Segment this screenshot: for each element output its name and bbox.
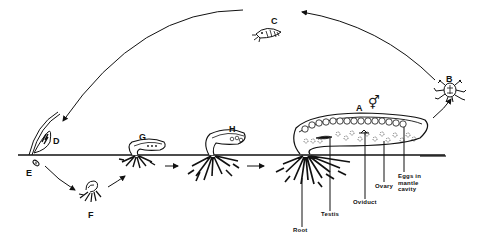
stage-label-h: H: [229, 125, 236, 134]
annotation-ovary: Ovary: [375, 183, 393, 190]
stage-label-c: C: [271, 17, 278, 26]
root-system: [276, 156, 350, 187]
kentrogon-e: [32, 159, 40, 167]
life-cycle-diagram: [0, 0, 485, 242]
annotation-oviduct: Oviduct: [353, 199, 377, 206]
arrow-e-to-f: [45, 166, 75, 190]
developing-stage-f: [79, 181, 101, 202]
annotation-root: Root: [293, 227, 307, 234]
stage-label-f: F: [88, 211, 94, 220]
arrow-b-to-c: [302, 12, 435, 80]
stage-label-g: G: [139, 133, 146, 142]
arrow-a-to-b: [433, 99, 451, 118]
stage-label-d: D: [53, 137, 60, 146]
arrow-f-to-g: [108, 176, 125, 187]
cyprid-on-seta-d: [29, 112, 60, 155]
cypris-larva-c: [252, 28, 281, 42]
stage-label-e: E: [26, 169, 32, 178]
arrow-c-to-d: [63, 10, 243, 121]
young-externa-g: [119, 139, 165, 168]
annotation-testis: Testis: [321, 211, 339, 218]
hermaphrodite-symbol-icon: ⚥: [368, 96, 380, 109]
annotation-eggs-in-mantle-cavity: Eggs in mantle cavity: [398, 173, 421, 193]
stage-label-a: A: [356, 104, 363, 113]
stage-label-b: B: [446, 75, 453, 84]
